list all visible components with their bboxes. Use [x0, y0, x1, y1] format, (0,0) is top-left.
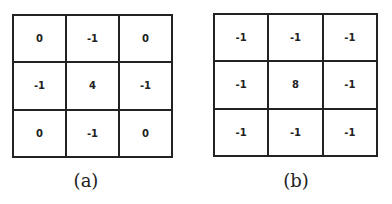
kernel-a-cell: 0: [119, 15, 172, 62]
kernel-a-cell: -1: [13, 62, 66, 109]
kernel-b-cell: -1: [268, 109, 322, 156]
kernel-a-cell: -1: [119, 62, 172, 109]
kernel-a-cell: -1: [66, 110, 119, 157]
kernel-b-cell: -1: [323, 61, 377, 108]
kernel-b-cell: -1: [268, 14, 322, 61]
kernel-b-caption: (b): [266, 170, 326, 191]
kernel-a-grid: 0 -1 0 -1 4 -1 0 -1 0: [12, 14, 173, 158]
kernel-a-cell: 0: [119, 110, 172, 157]
kernel-a-caption: (a): [56, 170, 116, 191]
kernel-b-cell: -1: [323, 109, 377, 156]
kernel-b-cell: -1: [323, 14, 377, 61]
kernel-b-cell: -1: [214, 109, 268, 156]
kernel-b-grid: -1 -1 -1 -1 8 -1 -1 -1 -1: [213, 13, 378, 157]
kernel-a-cell: 0: [13, 15, 66, 62]
kernel-a-cell: 0: [13, 110, 66, 157]
kernel-b-cell: -1: [214, 61, 268, 108]
kernel-a-cell: 4: [66, 62, 119, 109]
kernel-b-cell: -1: [214, 14, 268, 61]
kernel-a-cell: -1: [66, 15, 119, 62]
kernel-b-cell: 8: [268, 61, 322, 108]
